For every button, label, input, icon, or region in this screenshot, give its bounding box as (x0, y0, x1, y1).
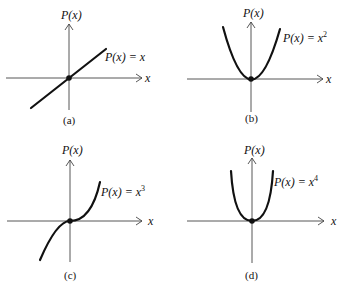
power-function-figure: P(x) x P(x) = x (a) P(x) x P(x) = x2 (b)… (0, 0, 344, 285)
graph-curve (223, 27, 280, 80)
x-axis-label: x (144, 71, 151, 85)
y-axis-label: P(x) (242, 6, 264, 20)
x-axis-label: x (330, 214, 337, 228)
origin-point (67, 218, 73, 224)
panel-caption: (b) (245, 112, 258, 125)
function-label: P(x) = x3 (100, 184, 145, 199)
panel-caption: (a) (63, 114, 76, 127)
y-axis-label: P(x) (60, 8, 82, 22)
x-axis-label: x (325, 72, 332, 86)
y-axis-label: P(x) (243, 143, 265, 157)
function-label: P(x) = x (104, 50, 146, 64)
origin-point (249, 218, 255, 224)
panel-caption: (c) (64, 269, 77, 282)
function-label: P(x) = x2 (282, 30, 327, 45)
origin-point (66, 75, 72, 81)
panel-b: P(x) x P(x) = x2 (b) (187, 6, 332, 125)
function-label: P(x) = x4 (273, 174, 318, 189)
origin-point (248, 76, 254, 82)
y-axis-label: P(x) (61, 143, 83, 157)
panel-a: P(x) x P(x) = x (a) (6, 8, 151, 127)
x-axis-label: x (147, 214, 154, 228)
panel-caption: (d) (245, 269, 258, 282)
panel-d: P(x) x P(x) = x4 (d) (187, 143, 337, 282)
panel-c: P(x) x P(x) = x3 (c) (7, 143, 154, 282)
